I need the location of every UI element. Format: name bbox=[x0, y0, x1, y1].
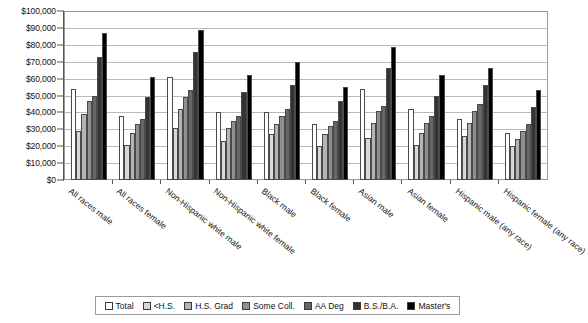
bar-group bbox=[451, 12, 499, 180]
x-axis-labels: All races maleAll races femaleNon-Hispan… bbox=[64, 180, 548, 290]
legend-label: Master's bbox=[418, 301, 450, 311]
bar-group bbox=[402, 12, 450, 180]
legend-swatch-icon bbox=[105, 302, 113, 310]
legend-item: AA Deg bbox=[304, 301, 344, 311]
legend-swatch-icon bbox=[353, 302, 361, 310]
x-axis-label: All races female bbox=[115, 186, 169, 231]
bar-group bbox=[161, 12, 209, 180]
y-axis-tick-label: $90,000 bbox=[26, 23, 56, 33]
legend-label: Some Coll. bbox=[253, 301, 295, 311]
bar bbox=[439, 75, 444, 180]
y-axis: $0$10,000$20,000$30,000$40,000$50,000$60… bbox=[0, 0, 64, 192]
x-axis-label: Black male bbox=[260, 186, 299, 219]
legend-swatch-icon bbox=[184, 302, 192, 310]
bar-group bbox=[306, 12, 354, 180]
x-axis-label: Black female bbox=[309, 186, 354, 224]
bar bbox=[488, 68, 493, 180]
y-axis-tick-label: $10,000 bbox=[26, 158, 56, 168]
legend-item: B.S./B.A. bbox=[353, 301, 399, 311]
y-axis-tick-label: $40,000 bbox=[26, 107, 56, 117]
y-axis-tick-label: $80,000 bbox=[26, 40, 56, 50]
bar-group bbox=[210, 12, 258, 180]
x-axis-label: Non-Hispanic white female bbox=[212, 186, 298, 256]
y-axis-tick-label: $30,000 bbox=[26, 124, 56, 134]
bar-group bbox=[65, 12, 113, 180]
legend-label: Total bbox=[116, 301, 134, 311]
bar bbox=[343, 87, 348, 180]
bars-layer bbox=[65, 12, 547, 180]
bar bbox=[536, 90, 541, 180]
legend-item: <H.S. bbox=[143, 301, 176, 311]
bar-group bbox=[499, 12, 547, 180]
bar bbox=[295, 62, 300, 180]
bar-group bbox=[354, 12, 402, 180]
y-axis-tick-label: $0 bbox=[47, 175, 56, 185]
legend-item: Total bbox=[105, 301, 134, 311]
x-axis-label: Asian male bbox=[357, 186, 396, 220]
y-axis-tick-label: $50,000 bbox=[26, 91, 56, 101]
legend-item: H.S. Grad bbox=[184, 301, 233, 311]
legend-swatch-icon bbox=[407, 302, 415, 310]
y-axis-tick-label: $100,000 bbox=[21, 6, 56, 16]
x-axis-label: Hispanic female (any race) bbox=[502, 186, 588, 256]
y-axis-tick-label: $70,000 bbox=[26, 57, 56, 67]
y-axis-tick-label: $20,000 bbox=[26, 141, 56, 151]
bar-group bbox=[113, 12, 161, 180]
bar bbox=[391, 47, 396, 181]
y-axis-tick-label: $60,000 bbox=[26, 74, 56, 84]
legend-label: B.S./B.A. bbox=[364, 301, 399, 311]
legend-label: <H.S. bbox=[154, 301, 176, 311]
chart-legend: Total<H.S.H.S. GradSome Coll.AA DegB.S./… bbox=[95, 296, 460, 315]
bar bbox=[198, 30, 203, 180]
legend-item: Some Coll. bbox=[242, 301, 295, 311]
legend-swatch-icon bbox=[304, 302, 312, 310]
bar-group bbox=[258, 12, 306, 180]
bar bbox=[150, 77, 155, 180]
legend-label: H.S. Grad bbox=[195, 301, 233, 311]
legend-item: Master's bbox=[407, 301, 450, 311]
bar bbox=[247, 75, 252, 180]
x-axis-label: Asian female bbox=[405, 186, 450, 224]
legend-swatch-icon bbox=[242, 302, 250, 310]
legend-label: AA Deg bbox=[315, 301, 344, 311]
legend-swatch-icon bbox=[143, 302, 151, 310]
bar bbox=[102, 33, 107, 180]
x-axis-label: Hispanic male (any race) bbox=[454, 186, 534, 252]
x-axis-label: All races male bbox=[67, 186, 115, 227]
